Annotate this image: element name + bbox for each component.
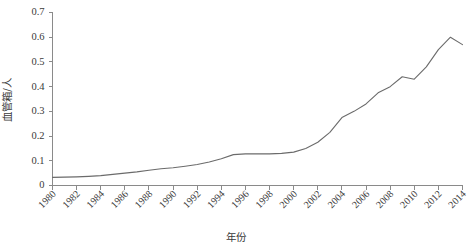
x-tick-label: 2008 <box>374 188 396 210</box>
data-series <box>53 37 463 177</box>
y-tick-label: 0.1 <box>31 155 44 166</box>
x-tick-label: 1990 <box>157 188 179 210</box>
y-tick-label: 0 <box>39 179 44 190</box>
y-tick-label: 0.2 <box>31 130 44 141</box>
x-tick-label: 1986 <box>108 188 130 210</box>
x-tick-label: 2000 <box>277 188 299 210</box>
x-tick-label: 1984 <box>84 188 106 210</box>
x-axis-title: 年份 <box>226 231 247 243</box>
y-tick-group <box>49 13 53 186</box>
y-tick-label: 0.3 <box>31 105 44 116</box>
x-tick-label: 1982 <box>60 188 82 210</box>
x-tick-group <box>53 186 463 190</box>
x-tick-label: 2010 <box>398 188 420 210</box>
chart-container: 00.10.20.30.40.50.60.7 19801982198419861… <box>0 0 472 245</box>
x-axis: 1980198219841986198819901992199419961998… <box>36 186 468 211</box>
x-tick-label: 1998 <box>253 188 275 210</box>
y-axis: 00.10.20.30.40.50.60.7 <box>31 6 52 190</box>
x-tick-label: 2002 <box>301 188 323 210</box>
x-tick-label: 1994 <box>205 188 227 210</box>
y-tick-label-group: 00.10.20.30.40.50.60.7 <box>31 6 45 190</box>
series-line-path <box>53 37 463 177</box>
y-tick-label: 0.6 <box>31 31 44 42</box>
y-tick-label: 0.4 <box>31 81 45 92</box>
x-tick-label-group: 1980198219841986198819901992199419961998… <box>36 188 468 210</box>
x-tick-label: 2006 <box>350 188 372 210</box>
y-tick-label: 0.7 <box>31 6 44 17</box>
x-tick-label: 1992 <box>181 188 203 210</box>
x-tick-label: 2012 <box>422 188 444 210</box>
y-axis-title: 血管箱/人 <box>1 77 13 122</box>
line-chart: 00.10.20.30.40.50.60.7 19801982198419861… <box>0 0 472 245</box>
y-tick-label: 0.5 <box>31 56 44 67</box>
x-tick-label: 1996 <box>229 188 251 210</box>
x-tick-label: 1988 <box>132 188 154 210</box>
x-tick-label: 2004 <box>325 188 347 210</box>
x-tick-label: 1980 <box>36 188 58 210</box>
x-tick-label: 2014 <box>446 188 468 210</box>
